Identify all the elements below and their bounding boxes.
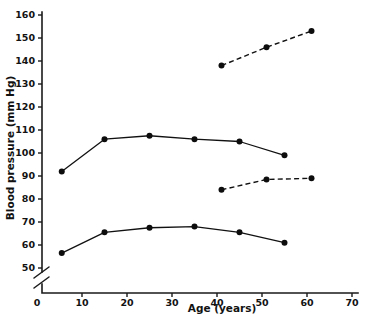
data-point-marker	[147, 133, 153, 139]
data-point-marker	[282, 152, 288, 158]
y-tick-label: 80	[22, 193, 36, 204]
data-point-marker	[219, 63, 225, 69]
y-tick-label: 90	[22, 170, 36, 181]
x-tick-label: 70	[345, 297, 359, 308]
y-tick-label: 150	[15, 32, 35, 43]
y-tick-label: 60	[22, 239, 36, 250]
data-point-marker	[264, 176, 270, 182]
x-tick-label: 10	[75, 297, 89, 308]
x-tick-label: 60	[300, 297, 314, 308]
data-point-marker	[59, 250, 65, 256]
data-point-marker	[237, 139, 243, 145]
data-point-marker	[219, 187, 225, 193]
data-point-marker	[282, 240, 288, 246]
data-point-marker	[147, 225, 153, 231]
y-tick-label: 130	[15, 78, 35, 89]
data-point-marker	[102, 136, 108, 142]
data-point-marker	[59, 168, 65, 174]
data-point-marker	[192, 136, 198, 142]
y-tick-label: 70	[22, 216, 36, 227]
chart-background	[0, 0, 369, 327]
y-tick-label: 100	[15, 147, 35, 158]
x-tick-label: 50	[255, 297, 269, 308]
y-tick-label: 140	[15, 55, 35, 66]
y-axis-title: Blood pressure (mm Hg)	[4, 76, 16, 220]
y-tick-label: 50	[22, 262, 36, 273]
data-point-marker	[264, 44, 270, 50]
y-tick-label: 120	[15, 101, 35, 112]
x-tick-label: 30	[165, 297, 179, 308]
chart-canvas: 5060708090100110120130140150160 01020304…	[0, 0, 369, 327]
blood-pressure-chart: 5060708090100110120130140150160 01020304…	[0, 0, 369, 327]
y-tick-label: 110	[15, 124, 35, 135]
y-tick-label: 160	[15, 9, 35, 20]
data-point-marker	[237, 229, 243, 235]
data-point-marker	[192, 224, 198, 230]
data-point-marker	[102, 229, 108, 235]
x-axis-title: Age (years)	[188, 302, 257, 314]
x-tick-label: 20	[120, 297, 134, 308]
data-point-marker	[309, 28, 315, 34]
x-tick-label: 0	[34, 297, 41, 308]
data-point-marker	[309, 175, 315, 181]
